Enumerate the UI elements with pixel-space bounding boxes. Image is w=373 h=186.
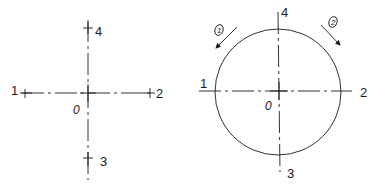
- left-axis-diagram: 1 2 4 3 0: [11, 20, 163, 180]
- left-point-1-label: 1: [11, 83, 18, 98]
- right-origin-label: 0: [265, 99, 272, 113]
- right-point-4-label: 4: [281, 5, 288, 20]
- diagram-canvas: 1 2 4 3 0 1 2 3 4 0 1: [0, 0, 373, 186]
- right-point-2-label: 2: [360, 85, 367, 100]
- left-point-3-label: 3: [100, 154, 107, 169]
- left-point-4-label: 4: [95, 24, 102, 39]
- rotation-arrow-2-icon: [321, 25, 340, 45]
- right-point-1-label: 1: [200, 76, 207, 91]
- arrow-2-label: 2: [330, 18, 336, 27]
- arrow-1-label: 1: [217, 26, 221, 35]
- right-circle-diagram: 1 2 3 4 0 1 2: [199, 5, 367, 181]
- right-point-3-label: 3: [287, 166, 294, 181]
- left-point-2-label: 2: [156, 86, 163, 101]
- left-origin-label: 0: [73, 103, 80, 117]
